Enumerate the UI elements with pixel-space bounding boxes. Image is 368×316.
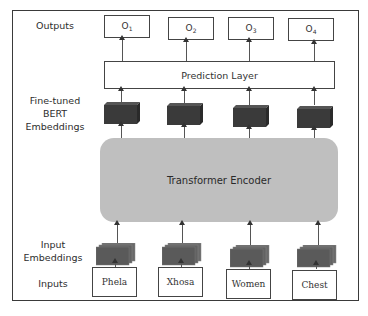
- prediction-layer: Prediction Layer: [104, 61, 335, 89]
- arrow-up-icon: [314, 129, 315, 138]
- input-embedding-cube-icon: [96, 243, 136, 267]
- output-label: O1: [122, 21, 133, 32]
- arrow-up-icon: [184, 126, 185, 138]
- label-inputs: Inputs: [28, 277, 78, 290]
- arrow-up-icon: [318, 224, 319, 246]
- arrow-up-icon: [249, 90, 250, 105]
- label-bert-line1: Fine-tuned: [22, 94, 88, 107]
- label-bert-line2: BERT: [22, 107, 88, 120]
- arrow-up-icon: [249, 128, 250, 138]
- transformer-encoder-label: Transformer Encoder: [167, 175, 271, 186]
- label-outputs: Outputs: [30, 19, 80, 32]
- input-embedding-cube-icon: [297, 245, 337, 269]
- label-input-emb-line1: Input: [20, 238, 86, 251]
- output-label: O3: [246, 23, 257, 34]
- label-input-embeddings: Input Embeddings: [20, 238, 86, 264]
- input-embedding-cube-icon: [230, 245, 270, 269]
- arrow-up-icon: [117, 224, 118, 244]
- output-box-2: O2: [168, 17, 214, 40]
- output-box-4: O4: [288, 18, 334, 41]
- arrow-up-icon: [184, 90, 185, 103]
- arrow-up-icon: [314, 43, 315, 61]
- output-label: O4: [306, 24, 317, 35]
- arrow-up-icon: [250, 224, 251, 246]
- input-box-xhosa: Xhosa: [158, 267, 203, 297]
- arrow-up-icon: [121, 125, 122, 138]
- input-embedding-cube-icon: [162, 243, 202, 267]
- arrow-up-icon: [182, 224, 183, 244]
- output-box-1: O1: [104, 15, 150, 38]
- label-bert-embeddings: Fine-tuned BERT Embeddings: [22, 94, 88, 133]
- input-box-phela: Phela: [92, 267, 137, 297]
- arrow-up-icon: [249, 41, 250, 61]
- input-box-women: Women: [226, 269, 271, 299]
- output-label: O2: [186, 23, 197, 34]
- arrow-up-icon: [186, 41, 187, 61]
- arrow-up-icon: [122, 39, 123, 61]
- arrow-up-icon: [316, 264, 317, 269]
- transformer-encoder: Transformer Encoder: [100, 138, 338, 222]
- label-input-emb-line2: Embeddings: [20, 251, 86, 264]
- label-bert-line3: Embeddings: [22, 120, 88, 133]
- arrow-up-icon: [314, 90, 315, 105]
- input-box-chest: Chest: [292, 270, 337, 300]
